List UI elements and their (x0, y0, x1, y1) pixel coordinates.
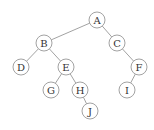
edge-a-c (102, 26, 112, 37)
node-label: A (92, 15, 101, 26)
tree-node-c: C (109, 35, 125, 51)
tree-nodes: ABCDEFGHIJ (13, 12, 147, 119)
edge-c-f (122, 49, 133, 61)
node-label: B (40, 38, 47, 49)
tree-node-e: E (58, 59, 74, 75)
edge-b-d (27, 49, 39, 61)
node-label: E (62, 62, 69, 73)
tree-node-h: H (72, 82, 88, 98)
tree-node-a: A (89, 12, 105, 28)
tree-node-b: B (36, 35, 52, 51)
edge-a-b (51, 23, 89, 40)
edge-b-e (49, 49, 60, 61)
tree-node-g: G (43, 82, 59, 98)
edge-e-h (70, 74, 76, 83)
edge-f-i (131, 74, 136, 83)
tree-node-f: F (131, 59, 147, 75)
node-label: J (87, 106, 92, 117)
node-label: F (136, 62, 143, 73)
node-label: I (125, 85, 129, 96)
tree-node-j: J (82, 103, 98, 119)
node-label: C (113, 38, 121, 49)
edge-h-j (83, 97, 86, 104)
tree-node-d: D (13, 59, 29, 75)
tree-node-i: I (119, 82, 135, 98)
node-label: H (76, 85, 85, 96)
node-label: G (47, 85, 55, 96)
node-label: D (17, 62, 25, 73)
edge-e-g (55, 74, 61, 84)
binary-tree-diagram: ABCDEFGHIJ (0, 0, 154, 130)
